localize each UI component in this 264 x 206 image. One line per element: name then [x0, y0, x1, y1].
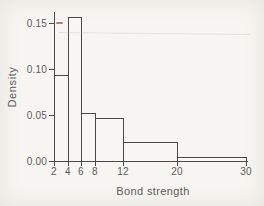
histogram-bar — [95, 118, 124, 161]
histogram-bar — [54, 75, 69, 161]
histogram-bar — [123, 142, 178, 161]
y-tick — [49, 23, 54, 24]
y-tick — [49, 161, 54, 162]
y-tick — [49, 115, 54, 116]
histogram-bar — [177, 157, 247, 161]
y-tick — [49, 69, 54, 70]
histogram-bar — [68, 17, 82, 161]
x-axis-title: Bond strength — [56, 185, 250, 197]
y-tick-label: 0.10 — [16, 63, 47, 76]
y-axis-title: Density — [6, 57, 20, 117]
histogram-figure: 24681220300.000.050.100.15 Density Bond … — [0, 0, 264, 206]
plot-area: 24681220300.000.050.100.15 — [0, 0, 264, 206]
x-tick-label: 20 — [165, 166, 189, 178]
y-tick-label: 0.00 — [16, 155, 47, 168]
scan-artifact-red-mark — [56, 22, 63, 24]
x-tick-label: 30 — [234, 166, 258, 178]
y-tick-label: 0.15 — [16, 17, 47, 30]
histogram-bar — [81, 113, 96, 161]
y-tick-label: 0.05 — [16, 109, 47, 122]
x-tick-label: 12 — [111, 166, 135, 178]
x-axis-line — [54, 161, 248, 162]
x-tick-label: 8 — [83, 166, 107, 178]
